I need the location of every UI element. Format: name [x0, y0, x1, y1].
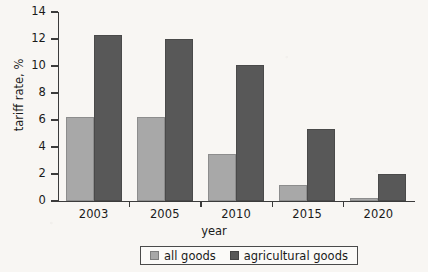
y-axis-tick-label: 8 [6, 87, 46, 99]
legend-swatch-icon [150, 251, 159, 260]
y-axis-tick-label: 6 [6, 114, 46, 126]
legend-label: agricultural goods [244, 250, 348, 262]
x-axis-tick-label: 2005 [135, 208, 195, 221]
y-axis-tick [51, 173, 58, 174]
x-axis-tick [272, 201, 273, 207]
bar-2020-agricultural-goods [378, 174, 406, 201]
legend-entry-all-goods: all goods [150, 250, 216, 262]
y-axis-tick-label: 4 [6, 141, 46, 153]
x-axis-tick-label: 2020 [348, 208, 408, 221]
chart-legend: all goodsagricultural goods [140, 246, 358, 265]
y-axis-tick [51, 146, 58, 147]
bar-2020-all-goods [350, 198, 378, 201]
bar-2003-all-goods [66, 117, 94, 201]
y-axis-tick [51, 92, 58, 93]
y-axis-tick-label: 14 [6, 6, 46, 18]
x-axis-tick-label: 2015 [277, 208, 337, 221]
legend-swatch-icon [230, 251, 239, 260]
x-axis-line [58, 201, 415, 202]
y-axis-tick-label: 10 [6, 60, 46, 72]
y-axis-tick [51, 200, 58, 201]
y-axis-tick [51, 119, 58, 120]
bar-2010-all-goods [208, 154, 236, 201]
bar-2015-agricultural-goods [307, 129, 335, 201]
bar-chart: tariff rate, % 02468101214 2003200520102… [0, 0, 428, 272]
x-axis-tick-label: 2010 [206, 208, 266, 221]
plot-area [58, 12, 414, 201]
x-axis-tick-label: 2003 [64, 208, 124, 221]
x-axis-tick [200, 201, 201, 207]
bar-2010-agricultural-goods [236, 65, 264, 201]
bar-2005-agricultural-goods [165, 39, 193, 201]
bar-2005-all-goods [137, 117, 165, 201]
y-axis-tick-label: 0 [6, 195, 46, 207]
y-axis-tick [51, 38, 58, 39]
y-axis-tick-label: 12 [6, 33, 46, 45]
x-axis-title: year [0, 224, 428, 238]
bar-2003-agricultural-goods [94, 35, 122, 201]
x-axis-tick [129, 201, 130, 207]
x-axis-tick [343, 201, 344, 207]
legend-label: all goods [164, 250, 216, 262]
bar-2015-all-goods [279, 185, 307, 201]
y-axis-tick-label: 2 [6, 168, 46, 180]
y-axis-tick [51, 65, 58, 66]
y-axis-tick [51, 11, 58, 12]
legend-entry-agricultural-goods: agricultural goods [230, 250, 348, 262]
